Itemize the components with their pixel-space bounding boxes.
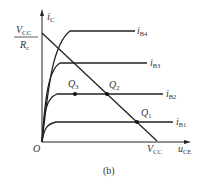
y-intercept-denominator: Rc xyxy=(19,39,29,52)
y-intercept-numerator: VCC xyxy=(16,24,32,37)
curve-ib4 xyxy=(42,31,135,142)
q2-label: Q2 xyxy=(109,79,119,91)
curve-ib2 xyxy=(42,94,163,142)
caption: (b) xyxy=(103,165,115,177)
x-axis-arrow-icon xyxy=(184,140,191,144)
transistor-output-characteristics: iC VCC Rc iB4 iB3 iB2 iB1 Q3 Q2 Q1 O VCC… xyxy=(0,0,201,188)
q1-label: Q1 xyxy=(141,107,151,119)
q3-point xyxy=(73,92,77,96)
q3-label: Q3 xyxy=(68,78,78,90)
curve-ib2-label: iB2 xyxy=(166,88,176,100)
y-axis-label: iC xyxy=(47,10,55,24)
load-line xyxy=(42,33,157,141)
curve-ib4-label: iB4 xyxy=(137,25,148,37)
x-axis-label: uCE xyxy=(178,143,191,155)
curve-ib1 xyxy=(42,122,173,142)
x-intercept-label: VCC xyxy=(147,143,162,155)
curve-ib1-label: iB1 xyxy=(176,116,186,128)
y-axis-arrow-icon xyxy=(40,9,44,16)
q2-point xyxy=(105,92,109,96)
curve-ib3 xyxy=(42,63,147,142)
curve-ib3-label: iB3 xyxy=(150,57,160,69)
origin-label: O xyxy=(33,143,40,154)
q1-point xyxy=(135,120,139,124)
